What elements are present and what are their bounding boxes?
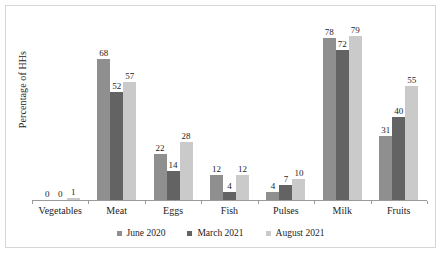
bar[interactable] <box>154 154 167 200</box>
bar-set: 787279 <box>323 14 362 200</box>
axis-tick <box>145 201 146 204</box>
bar[interactable] <box>223 192 236 200</box>
bar[interactable] <box>180 142 193 200</box>
bar-slot: 28 <box>180 14 193 200</box>
bar-value-label: 57 <box>125 71 134 81</box>
bar[interactable] <box>405 86 418 200</box>
bar-groups: 001685257221428124124710787279314055 <box>32 14 427 200</box>
bar[interactable] <box>236 175 249 200</box>
bar[interactable] <box>210 175 223 200</box>
bar-value-label: 12 <box>212 164 221 174</box>
bar-slot: 68 <box>97 14 110 200</box>
bar[interactable] <box>110 92 123 200</box>
bar-slot: 72 <box>336 14 349 200</box>
bar-value-label: 10 <box>294 168 303 178</box>
axis-tick <box>258 201 259 204</box>
x-axis-label-meat: Meat <box>88 205 144 221</box>
bar-slot: 79 <box>349 14 362 200</box>
legend-swatch-icon <box>187 231 192 236</box>
legend-swatch-icon <box>117 231 122 236</box>
x-axis-label-vegetables: Vegetables <box>32 205 88 221</box>
bar-value-label: 22 <box>156 143 165 153</box>
x-axis-label-eggs: Eggs <box>145 205 201 221</box>
axis-tick <box>201 201 202 204</box>
bar-slot: 0 <box>54 14 67 200</box>
bar[interactable] <box>323 38 336 200</box>
bar-group: 12412 <box>201 14 257 200</box>
bar-slot: 55 <box>405 14 418 200</box>
bar-group: 787279 <box>314 14 370 200</box>
x-axis-labels: VegetablesMeatEggsFishPulsesMilkFruits <box>32 205 427 221</box>
bar[interactable] <box>123 82 136 200</box>
bar-group: 001 <box>32 14 88 200</box>
x-axis-line <box>32 200 427 201</box>
bar-slot: 1 <box>67 14 80 200</box>
bar-set: 12412 <box>210 14 249 200</box>
axis-tick <box>88 201 89 204</box>
bar-value-label: 12 <box>238 164 247 174</box>
bar-slot: 12 <box>236 14 249 200</box>
bar-group: 314055 <box>371 14 427 200</box>
legend-item[interactable]: August 2021 <box>266 228 325 238</box>
bar-value-label: 68 <box>99 48 108 58</box>
bar-value-label: 14 <box>169 160 178 170</box>
bar-value-label: 28 <box>182 131 191 141</box>
legend-label: August 2021 <box>276 228 325 238</box>
axis-tick <box>427 201 428 204</box>
bar-slot: 31 <box>379 14 392 200</box>
bar-set: 4710 <box>266 14 305 200</box>
bar[interactable] <box>349 36 362 200</box>
bar[interactable] <box>336 50 349 200</box>
bar-value-label: 79 <box>351 25 360 35</box>
bar[interactable] <box>97 59 110 200</box>
axis-tick <box>371 201 372 204</box>
bar-value-label: 0 <box>58 189 63 199</box>
plot-area: 001685257221428124124710787279314055 <box>32 14 427 201</box>
bar-slot: 4 <box>223 14 236 200</box>
legend-swatch-icon <box>266 231 271 236</box>
bar-value-label: 78 <box>325 27 334 37</box>
bar-set: 001 <box>41 14 80 200</box>
bar-slot: 22 <box>154 14 167 200</box>
bar[interactable] <box>392 117 405 200</box>
bar-slot: 78 <box>323 14 336 200</box>
bar[interactable] <box>279 185 292 200</box>
bar-value-label: 31 <box>381 125 390 135</box>
bar-value-label: 40 <box>394 106 403 116</box>
x-axis-label-pulses: Pulses <box>258 205 314 221</box>
bar-value-label: 4 <box>271 181 276 191</box>
bar[interactable] <box>379 136 392 200</box>
bar-slot: 7 <box>279 14 292 200</box>
x-axis-label-fruits: Fruits <box>371 205 427 221</box>
y-axis-title: Percentage of HHs <box>17 30 28 150</box>
legend-item[interactable]: March 2021 <box>187 228 243 238</box>
bar-set: 685257 <box>97 14 136 200</box>
bar-value-label: 0 <box>45 189 50 199</box>
axis-tick <box>32 201 33 204</box>
bar-group: 221428 <box>145 14 201 200</box>
bar[interactable] <box>266 192 279 200</box>
bar-group: 4710 <box>258 14 314 200</box>
bar-value-label: 7 <box>284 174 289 184</box>
bar[interactable] <box>292 179 305 200</box>
bar-group: 685257 <box>88 14 144 200</box>
legend-label: June 2020 <box>127 228 166 238</box>
legend-label: March 2021 <box>197 228 243 238</box>
bar-value-label: 55 <box>407 75 416 85</box>
chart-legend: June 2020March 2021August 2021 <box>6 228 435 238</box>
bar-slot: 10 <box>292 14 305 200</box>
legend-item[interactable]: June 2020 <box>117 228 166 238</box>
axis-tick <box>314 201 315 204</box>
bar-set: 314055 <box>379 14 418 200</box>
bar-slot: 40 <box>392 14 405 200</box>
bar-slot: 14 <box>167 14 180 200</box>
x-axis-label-fish: Fish <box>201 205 257 221</box>
bar-slot: 52 <box>110 14 123 200</box>
chart-container: Percentage of HHs 0016852572214281241247… <box>5 5 436 248</box>
bar-value-label: 4 <box>227 181 232 191</box>
bar-slot: 57 <box>123 14 136 200</box>
bar-value-label: 52 <box>112 81 121 91</box>
bar-slot: 0 <box>41 14 54 200</box>
bar-value-label: 1 <box>71 187 76 197</box>
bar[interactable] <box>167 171 180 200</box>
